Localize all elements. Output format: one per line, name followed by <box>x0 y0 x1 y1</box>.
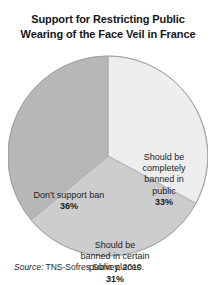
pie-slices <box>8 56 208 256</box>
title-line-1: Support for Restricting Public <box>0 12 216 27</box>
title-line-2: Wearing of the Face Veil in France <box>0 27 216 42</box>
source-text: TNS-Sofres Survey, 2010. <box>43 262 144 272</box>
slice-value-certain-public-places: 31% <box>60 274 170 285</box>
pie-svg <box>8 54 208 258</box>
source-note: Source: TNS-Sofres Survey, 2010. <box>14 262 144 273</box>
page-title: Support for Restricting Public Wearing o… <box>0 12 216 42</box>
pie-chart: Should be completely banned in public 33… <box>8 54 208 258</box>
source-prefix: Source: <box>14 262 43 272</box>
